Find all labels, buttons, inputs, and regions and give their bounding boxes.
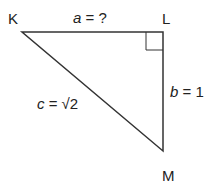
side-c-label: c = √2 — [37, 96, 78, 111]
triangle-klm — [22, 32, 163, 151]
side-a-value: = ? — [81, 9, 106, 26]
side-b-label: b = 1 — [170, 84, 204, 99]
vertex-k-label: K — [8, 11, 18, 26]
side-c-var: c — [37, 95, 45, 112]
side-c-value: = √2 — [45, 95, 79, 112]
side-a-label: a = ? — [73, 10, 107, 25]
vertex-l-label: L — [162, 11, 170, 26]
right-angle-marker — [146, 32, 163, 50]
side-b-value: = 1 — [178, 83, 203, 100]
vertex-m-label: M — [162, 168, 175, 183]
